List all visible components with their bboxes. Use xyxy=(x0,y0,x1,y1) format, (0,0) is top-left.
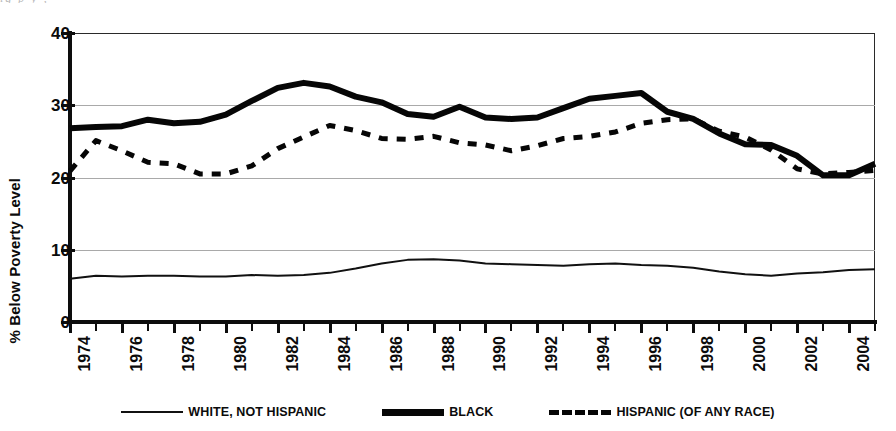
x-axis-tick xyxy=(614,322,616,331)
x-axis-tick xyxy=(692,322,695,333)
x-axis-tick xyxy=(303,322,305,331)
y-axis-tick-label: 30 xyxy=(40,97,70,114)
x-axis-tick xyxy=(199,322,201,331)
x-axis-tick xyxy=(744,322,747,333)
x-axis-tick xyxy=(770,322,772,331)
x-axis-tick xyxy=(121,322,124,333)
x-axis-tick-label: 1990 xyxy=(492,336,508,372)
x-axis-tick xyxy=(433,322,436,333)
x-axis-tick-label: 2002 xyxy=(804,336,820,372)
x-axis-tick-label: 1994 xyxy=(596,336,612,372)
x-axis-tick xyxy=(588,322,591,333)
x-axis-tick-label: 1976 xyxy=(129,336,145,372)
y-axis-tick-label: 10 xyxy=(40,242,70,259)
x-axis-tick-label: 1974 xyxy=(77,336,93,372)
x-axis-tick xyxy=(822,322,824,331)
x-axis-tick xyxy=(718,322,720,331)
x-axis-tick-label: 1988 xyxy=(441,336,457,372)
x-axis-tick xyxy=(277,322,280,333)
legend-item: BLACK xyxy=(382,405,493,419)
x-axis-tick xyxy=(225,322,228,333)
x-axis-tick-label: 1986 xyxy=(389,336,405,372)
gridline xyxy=(70,178,875,179)
x-axis-tick-label: 2000 xyxy=(752,336,768,372)
x-axis-tick xyxy=(562,322,564,331)
legend-item: HISPANIC (OF ANY RACE) xyxy=(549,405,774,419)
legend-item: WHITE, NOT HISPANIC xyxy=(121,405,326,419)
x-axis-tick-label: 2004 xyxy=(856,336,872,372)
poverty-line-chart: 403020100 197419761978198019821984198619… xyxy=(0,0,896,431)
gridline xyxy=(70,250,875,251)
x-axis-tick xyxy=(147,322,149,331)
x-axis-tick xyxy=(666,322,668,331)
x-axis-line xyxy=(68,320,877,324)
gridline xyxy=(70,105,875,106)
legend-label: BLACK xyxy=(449,405,493,419)
x-axis-tick-label: 1984 xyxy=(337,336,353,372)
y-axis-tick-label: 0 xyxy=(40,314,70,331)
x-axis-tick xyxy=(459,322,461,331)
legend-swatch-1-icon xyxy=(121,411,183,413)
legend-swatch-3-icon xyxy=(549,410,611,415)
x-axis-tick xyxy=(796,322,799,333)
x-axis-tick xyxy=(640,322,643,333)
x-axis-tick-label: 1996 xyxy=(648,336,664,372)
legend-label: HISPANIC (OF ANY RACE) xyxy=(616,405,774,419)
x-axis-tick xyxy=(69,322,72,333)
x-axis-tick-label: 1992 xyxy=(544,336,560,372)
x-axis-tick-label: 1998 xyxy=(700,336,716,372)
y-axis-tick-label: 40 xyxy=(40,25,70,42)
x-axis-tick xyxy=(95,322,97,331)
x-axis-tick xyxy=(329,322,332,333)
x-axis-tick-label: 1978 xyxy=(181,336,197,372)
x-axis-tick xyxy=(848,322,851,333)
x-axis-tick xyxy=(407,322,409,331)
y-axis-tick-label: 20 xyxy=(40,170,70,187)
x-axis-tick xyxy=(484,322,487,333)
x-axis-tick-label: 1982 xyxy=(285,336,301,372)
x-axis-tick xyxy=(874,322,876,331)
x-axis-tick xyxy=(251,322,253,331)
x-axis-tick xyxy=(510,322,512,331)
x-axis-tick xyxy=(355,322,357,331)
chart-legend: WHITE, NOT HISPANICBLACKHISPANIC (OF ANY… xyxy=(0,398,896,426)
legend-swatch-2-icon xyxy=(382,409,444,416)
x-axis-tick xyxy=(381,322,384,333)
x-axis-tick xyxy=(173,322,176,333)
legend-label: WHITE, NOT HISPANIC xyxy=(188,405,326,419)
y-axis-title: % Below Poverty Level xyxy=(6,178,23,344)
x-axis-tick xyxy=(536,322,539,333)
x-axis-tick-label: 1980 xyxy=(233,336,249,372)
